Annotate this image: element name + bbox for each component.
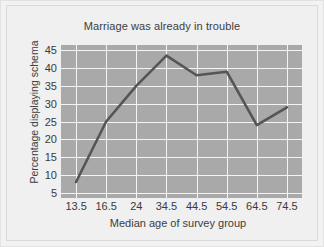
y-tick-20: 20: [45, 133, 57, 145]
x-tick-34.5: 34.5: [156, 200, 177, 212]
x-tick-24: 24: [130, 200, 142, 212]
x-tick-13.5: 13.5: [65, 200, 86, 212]
y-tick-5: 5: [51, 187, 57, 199]
x-axis-title: Median age of survey group: [47, 217, 309, 229]
x-tick-54.5: 54.5: [216, 200, 237, 212]
y-tick-30: 30: [45, 98, 57, 110]
x-tick-74.5: 74.5: [276, 200, 297, 212]
y-tick-10: 10: [45, 169, 57, 181]
x-tick-64.5: 64.5: [246, 200, 267, 212]
y-tick-40: 40: [45, 62, 57, 74]
chart-page: Marriage was already in trouble Percenta…: [0, 0, 324, 247]
x-axis-tick-labels: 13.516.52434.544.554.564.574.5: [61, 200, 302, 216]
chart-frame: Marriage was already in trouble Percenta…: [6, 5, 318, 241]
y-axis-tick-labels: 51015202530354045: [7, 45, 57, 198]
chart-title: Marriage was already in trouble: [7, 20, 317, 32]
y-tick-15: 15: [45, 151, 57, 163]
x-tick-44.5: 44.5: [186, 200, 207, 212]
x-tick-16.5: 16.5: [95, 200, 116, 212]
y-tick-45: 45: [45, 44, 57, 56]
line-series: [61, 45, 302, 198]
y-tick-35: 35: [45, 80, 57, 92]
y-tick-25: 25: [45, 116, 57, 128]
plot-area: [61, 45, 302, 198]
